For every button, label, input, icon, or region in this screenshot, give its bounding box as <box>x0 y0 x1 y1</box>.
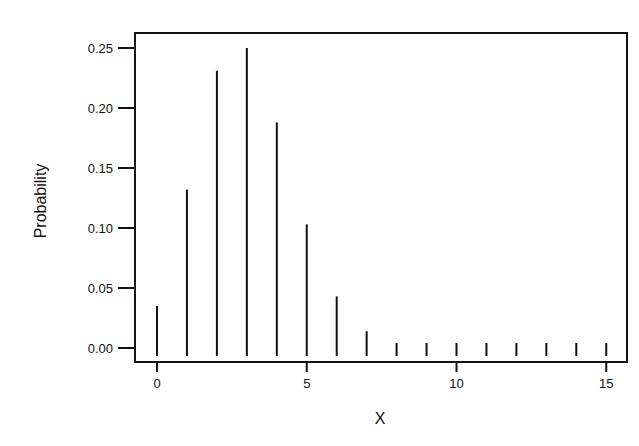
y-tick-label: 0.15 <box>88 161 113 176</box>
probability-stem-chart: 0.000.050.100.150.200.25 051015 X Probab… <box>0 0 639 446</box>
y-tick-label: 0.25 <box>88 41 113 56</box>
x-tick-label: 5 <box>303 376 310 391</box>
x-tick-label: 0 <box>153 376 160 391</box>
x-tick-label: 15 <box>599 376 613 391</box>
y-tick-label: 0.10 <box>88 221 113 236</box>
x-axis: 051015 <box>153 362 613 391</box>
y-tick-label: 0.20 <box>88 101 113 116</box>
y-tick-label: 0.00 <box>88 341 113 356</box>
y-axis-label: Probability <box>32 164 49 239</box>
stem-bars <box>157 48 606 356</box>
y-tick-label: 0.05 <box>88 281 113 296</box>
x-tick-label: 10 <box>449 376 463 391</box>
y-axis: 0.000.050.100.150.200.25 <box>88 41 135 356</box>
plot-frame <box>135 33 627 362</box>
x-axis-label: X <box>375 410 386 427</box>
